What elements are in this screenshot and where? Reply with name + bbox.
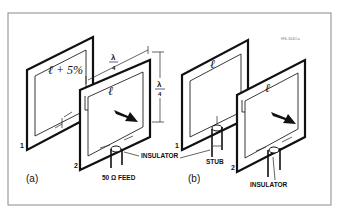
loop-1-length-label: ℓ + 5% xyxy=(48,63,83,77)
quad-antenna-diagram: HS-104Ca ℓ + 5% 1 ℓ 2 xyxy=(0,0,340,216)
insulator-icon xyxy=(111,146,121,152)
loop-2-length-label: ℓ xyxy=(108,84,113,98)
loop-1-number-b: 1 xyxy=(175,142,179,149)
feed-label: 50 Ω FEED xyxy=(102,174,136,181)
stub-label: STUB xyxy=(206,158,224,165)
spacing-four: 4 xyxy=(112,65,116,71)
panel-b-label: (b) xyxy=(188,173,200,184)
loop-2-number-b: 2 xyxy=(231,164,235,171)
insulator-icon-b xyxy=(269,147,279,153)
loop-1-number: 1 xyxy=(20,142,24,149)
loop-2-number: 2 xyxy=(74,162,78,169)
spacing-lambda: λ xyxy=(111,53,116,62)
insulator-leader-a-to-b xyxy=(180,150,210,158)
panel-a-label: (a) xyxy=(26,173,38,184)
figure-id: HS-104Ca xyxy=(281,36,300,41)
insulator-leader xyxy=(124,152,139,156)
loop-1-length-label-b: ℓ xyxy=(210,57,215,71)
panel-b: ℓ 1 ℓ 2 STUB INSULATOR (b) xyxy=(175,40,305,188)
insulator-label-a: INSULATOR xyxy=(141,152,179,159)
panel-a: ℓ + 5% 1 ℓ 2 λ 4 xyxy=(20,37,179,184)
side-dimension: λ 4 xyxy=(152,52,166,122)
stub-insulator-icon xyxy=(212,125,222,131)
insulator-label-b: INSULATOR xyxy=(250,181,288,188)
loop-2-length-label-b: ℓ xyxy=(265,81,270,95)
insulator-leader-b xyxy=(273,157,275,180)
side-lambda: λ xyxy=(157,80,162,89)
